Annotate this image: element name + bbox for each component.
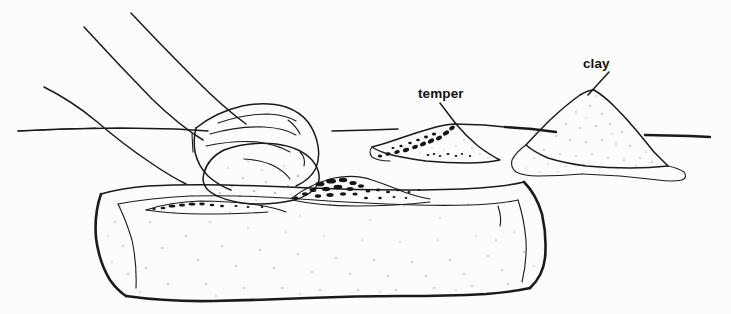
label-clay-text: clay — [583, 56, 610, 71]
background — [0, 0, 731, 314]
clay-temper-illustration: temper clay — [0, 0, 731, 314]
illustration-canvas: temper clay — [0, 0, 731, 314]
label-temper-text: temper — [418, 86, 464, 101]
